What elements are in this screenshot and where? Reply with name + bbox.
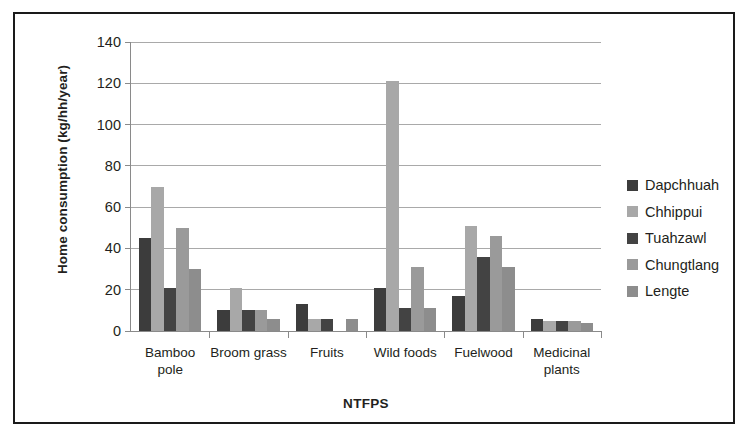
bar [568, 321, 581, 331]
bar [581, 323, 594, 331]
x-tick-mark [523, 331, 524, 338]
legend-item-tuahzawl[interactable]: Tuahzawl [627, 225, 719, 252]
bar [189, 269, 202, 331]
bar-group [209, 42, 287, 331]
bar [465, 226, 478, 331]
bar [230, 288, 243, 331]
plot-inner: 020406080100120140 Bamboo poleBroom gras… [131, 42, 601, 331]
bar [139, 238, 152, 331]
x-tick-mark [444, 331, 445, 338]
x-tick-mark [209, 331, 210, 338]
bar [267, 319, 280, 331]
bar [296, 304, 309, 331]
y-tick-label-140: 140 [97, 34, 121, 50]
bar [543, 321, 556, 331]
legend-label: Chungtlang [645, 257, 719, 273]
x-axis-category-label: Wild foods [374, 344, 437, 361]
bar-group [288, 42, 366, 331]
legend-label: Dapchhuah [645, 177, 719, 193]
x-axis-category-label: Fuelwood [454, 344, 513, 361]
legend-swatch-icon [627, 180, 638, 191]
bar [424, 308, 437, 331]
bar [321, 319, 334, 331]
bar [556, 321, 569, 331]
bar [176, 228, 189, 331]
legend-swatch-icon [627, 206, 638, 217]
bar [164, 288, 177, 331]
bar [477, 257, 490, 331]
bar-group [366, 42, 444, 331]
x-axis-category-label: Broom grass [210, 344, 287, 361]
bar [308, 319, 321, 331]
x-axis-category-label: Bamboo pole [145, 344, 195, 378]
x-axis-category-label: Medicinal plants [533, 344, 590, 378]
bar [374, 288, 387, 331]
legend-swatch-icon [627, 286, 638, 297]
x-tick-mark [288, 331, 289, 338]
y-tick-label-100: 100 [97, 117, 121, 133]
bar [346, 319, 359, 331]
bar [386, 81, 399, 331]
legend-item-dapchhuah[interactable]: Dapchhuah [627, 172, 719, 199]
bar [490, 236, 503, 331]
bar-group [523, 42, 601, 331]
bar [242, 310, 255, 331]
legend-label: Chhippui [645, 204, 702, 220]
bar [452, 296, 465, 331]
legend-label: Tuahzawl [645, 230, 707, 246]
y-tick-label-40: 40 [105, 240, 121, 256]
bar [255, 310, 268, 331]
y-axis-title: Home consumption (kg/hh/year) [55, 25, 70, 315]
legend-label: Lengte [645, 283, 689, 299]
bar [217, 310, 230, 331]
x-axis-category-label: Fruits [310, 344, 344, 361]
bar-group [131, 42, 209, 331]
bar [399, 308, 412, 331]
x-tick-mark [601, 331, 602, 338]
y-tick-label-80: 80 [105, 158, 121, 174]
bar [531, 319, 544, 331]
y-tick-label-20: 20 [105, 282, 121, 298]
bar [411, 267, 424, 331]
y-tick-label-0: 0 [113, 323, 121, 339]
chart-figure-frame: Home consumption (kg/hh/year) 0204060801… [13, 12, 735, 424]
legend-swatch-icon [627, 259, 638, 270]
x-tick-mark [366, 331, 367, 338]
bar [151, 187, 164, 332]
legend-swatch-icon [627, 233, 638, 244]
legend-item-chhippui[interactable]: Chhippui [627, 199, 719, 226]
y-tick-label-120: 120 [97, 75, 121, 91]
y-tick-label-60: 60 [105, 199, 121, 215]
plot-area: 020406080100120140 Bamboo poleBroom gras… [131, 42, 601, 331]
chart-legend: DapchhuahChhippuiTuahzawlChungtlangLengt… [627, 172, 719, 305]
bar [502, 267, 515, 331]
bar-group [444, 42, 522, 331]
legend-item-lengte[interactable]: Lengte [627, 278, 719, 305]
x-axis-title: NTFPS [131, 396, 601, 411]
legend-item-chungtlang[interactable]: Chungtlang [627, 252, 719, 279]
